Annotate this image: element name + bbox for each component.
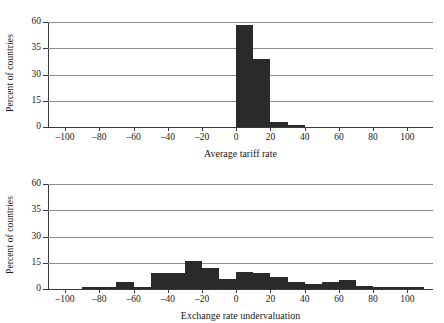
- histogram-bar: [288, 282, 305, 289]
- x-tick-label: –100: [56, 133, 75, 143]
- x-tick-label: 100: [400, 133, 414, 143]
- x-tick-label: –80: [92, 295, 106, 305]
- histogram-bar: [253, 59, 270, 127]
- x-tick-label: –40: [161, 133, 175, 143]
- x-tick-label: 80: [368, 295, 378, 305]
- x-tick-label: 20: [266, 295, 276, 305]
- x-tick: [168, 127, 169, 131]
- histogram-bar: [236, 272, 253, 290]
- x-tick: [99, 289, 100, 293]
- x-axis-title: Average tariff rate: [48, 148, 433, 159]
- x-tick: [407, 289, 408, 293]
- x-tick: [168, 289, 169, 293]
- x-tick-label: 20: [266, 133, 276, 143]
- y-tick-label: 60: [32, 17, 42, 27]
- x-tick-label: –60: [126, 295, 140, 305]
- x-tick: [305, 289, 306, 293]
- x-tick: [134, 127, 135, 131]
- x-tick: [373, 127, 374, 131]
- plot-area-bottom: 015303560 –100–80–60–40–20020406080100 E…: [48, 184, 433, 289]
- y-tick-label: 35: [32, 206, 42, 216]
- x-tick-label: –20: [195, 133, 209, 143]
- x-tick: [339, 289, 340, 293]
- x-tick: [202, 289, 203, 293]
- x-tick-label: –60: [126, 133, 140, 143]
- x-tick: [407, 127, 408, 131]
- x-axis-line: [48, 127, 433, 128]
- y-tick-label: 30: [32, 232, 42, 242]
- plot-area-top: 015303560 –100–80–60–40–20020406080100 A…: [48, 22, 433, 127]
- x-tick: [65, 127, 66, 131]
- histogram-bar: [168, 273, 185, 289]
- histogram-bar: [270, 277, 287, 289]
- histogram-bar: [185, 261, 202, 289]
- x-tick: [236, 289, 237, 293]
- x-tick: [373, 289, 374, 293]
- x-tick: [236, 127, 237, 131]
- x-tick: [339, 127, 340, 131]
- x-tick-label: –80: [92, 133, 106, 143]
- x-tick: [134, 289, 135, 293]
- bars-bottom: [48, 184, 433, 289]
- x-tick-label: 40: [300, 295, 310, 305]
- x-tick-label: –100: [56, 295, 75, 305]
- x-tick-label: 60: [334, 133, 344, 143]
- histogram-bar: [339, 280, 356, 289]
- x-tick-label: –20: [195, 295, 209, 305]
- x-tick: [305, 127, 306, 131]
- chart-exchange-rate-undervaluation: Percent of countries 015303560 –100–80–6…: [0, 162, 444, 323]
- histogram-bar: [236, 25, 253, 127]
- figure-two-histograms: Percent of countries 015303560 –100–80–6…: [0, 0, 444, 323]
- bars-top: [48, 22, 433, 127]
- x-tick: [270, 289, 271, 293]
- y-tick-label: 15: [32, 96, 42, 106]
- histogram-bar: [151, 273, 168, 289]
- x-tick-label: 0: [234, 295, 239, 305]
- y-tick-label: 35: [32, 44, 42, 54]
- y-tick-label: 60: [32, 179, 42, 189]
- histogram-bar: [322, 282, 339, 289]
- x-tick-label: –40: [161, 295, 175, 305]
- x-tick: [270, 127, 271, 131]
- y-axis-title: Percent of countries: [2, 174, 18, 296]
- x-tick-label: 0: [234, 133, 239, 143]
- y-axis-title: Percent of countries: [2, 12, 18, 134]
- histogram-bar: [202, 268, 219, 289]
- histogram-bar: [219, 279, 236, 290]
- x-axis-line: [48, 289, 433, 290]
- x-axis-title: Exchange rate undervaluation: [48, 310, 433, 321]
- x-tick-label: 100: [400, 295, 414, 305]
- y-tick-label: 30: [32, 70, 42, 80]
- chart-average-tariff-rate: Percent of countries 015303560 –100–80–6…: [0, 0, 444, 161]
- x-tick-label: 60: [334, 295, 344, 305]
- x-tick-label: 40: [300, 133, 310, 143]
- x-tick-label: 80: [368, 133, 378, 143]
- y-tick-label: 0: [36, 122, 41, 132]
- histogram-bar: [253, 273, 270, 289]
- x-tick: [65, 289, 66, 293]
- x-tick: [202, 127, 203, 131]
- histogram-bar: [116, 282, 133, 289]
- y-tick-label: 15: [32, 258, 42, 268]
- x-tick: [99, 127, 100, 131]
- y-tick-label: 0: [36, 284, 41, 294]
